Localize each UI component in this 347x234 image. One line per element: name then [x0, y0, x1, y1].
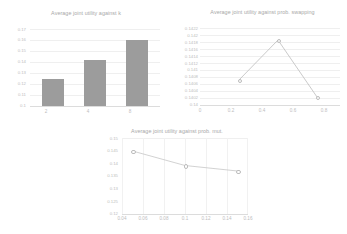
- bar-k-4: [84, 60, 106, 106]
- chart-swapping-xtick-0: 0: [185, 109, 215, 114]
- bar-k-2: [42, 79, 64, 107]
- chart-average-joint-utility-against-k: Average joint utility against k 0.17 0.1…: [0, 4, 172, 124]
- chart-average-joint-utility-against-prob-swapping: Average joint utility against prob. swap…: [174, 4, 347, 124]
- chart-k-ytick-5: 0.12: [2, 82, 26, 86]
- chart-swapping-ytick-0: 0.1422: [176, 27, 198, 31]
- chart-k-title: Average joint utility against k: [0, 10, 172, 16]
- chart-swapping-ytick-8: 0.1406: [176, 82, 198, 86]
- chart-mut-ytick-6: 0.12: [94, 212, 118, 216]
- chart-k-ytick-2: 0.15: [2, 49, 26, 53]
- chart-k-ytick-3: 0.14: [2, 60, 26, 64]
- chart-mut-plot-area: [122, 138, 248, 214]
- chart-mut-ytick-0: 0.15: [94, 137, 118, 141]
- chart-swapping-ytick-10: 0.1402: [176, 96, 198, 100]
- chart-mut-ytick-2: 0.14: [94, 162, 118, 166]
- chart-swapping-xtick-2: 0.4: [247, 109, 277, 114]
- chart-mut-title: Average joint utility against prob. mut.: [62, 128, 292, 134]
- data-point: [131, 150, 135, 154]
- chart-swapping-plot-area: [200, 28, 340, 105]
- chart-swapping-xtick-3: 0.6: [278, 109, 308, 114]
- chart-mut-xtick-6: 0.16: [233, 217, 263, 222]
- chart-mut-ytick-1: 0.145: [94, 149, 118, 153]
- chart-mut-x-axis: [122, 214, 248, 215]
- chart-swapping-ytick-9: 0.1404: [176, 89, 198, 93]
- chart-mut-ytick-5: 0.125: [94, 200, 118, 204]
- chart-swapping-ytick-7: 0.1408: [176, 75, 198, 79]
- chart-average-joint-utility-against-prob-mut: Average joint utility against prob. mut.…: [62, 126, 292, 231]
- chart-k-xtick-1: 4: [73, 110, 103, 115]
- chart-k-x-axis: [30, 106, 160, 107]
- chart-k-xtick-2: 8: [115, 110, 145, 115]
- bar-k-8: [126, 40, 148, 106]
- data-point: [236, 170, 240, 174]
- chart-swapping-ytick-3: 0.1416: [176, 48, 198, 52]
- chart-swapping-ytick-2: 0.1418: [176, 41, 198, 45]
- chart-swapping-xtick-4: 0.8: [309, 109, 339, 114]
- chart-mut-ytick-3: 0.135: [94, 174, 118, 178]
- chart-mut-ytick-4: 0.13: [94, 187, 118, 191]
- chart-k-ytick-6: 0.11: [2, 93, 26, 97]
- chart-swapping-ytick-11: 0.14: [176, 103, 198, 107]
- chart-k-ytick-1: 0.16: [2, 38, 26, 42]
- chart-swapping-ytick-1: 0.142: [176, 34, 198, 38]
- chart-swapping-ytick-4: 0.1414: [176, 55, 198, 59]
- chart-k-xtick-0: 2: [31, 110, 61, 115]
- chart-swapping-title: Average joint utility against prob. swap…: [182, 9, 343, 15]
- chart-k-plot-area: [30, 29, 160, 106]
- chart-swapping-ytick-5: 0.1412: [176, 62, 198, 66]
- chart-mut-line: [122, 138, 248, 214]
- gridline: [30, 29, 160, 30]
- chart-swapping-ytick-6: 0.141: [176, 68, 198, 72]
- chart-k-ytick-0: 0.17: [2, 28, 26, 32]
- chart-k-ytick-4: 0.13: [2, 71, 26, 75]
- chart-k-ytick-7: 0.1: [2, 104, 26, 108]
- data-point: [184, 164, 188, 168]
- chart-swapping-x-axis: [200, 105, 340, 106]
- chart-swapping-xtick-1: 0.2: [216, 109, 246, 114]
- chart-swapping-line: [200, 28, 340, 105]
